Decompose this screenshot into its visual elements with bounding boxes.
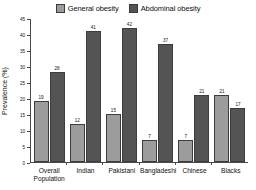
y-axis-tick — [27, 51, 30, 52]
bar[interactable] — [158, 44, 173, 162]
bar-value-label: 19 — [39, 95, 44, 100]
y-axis-tick-label: 25 — [20, 81, 25, 86]
bar-slot: 21 — [194, 19, 209, 162]
y-axis-tick-label: 30 — [20, 65, 25, 70]
bar-value-label: 21 — [219, 89, 224, 94]
bar-slot: 15 — [106, 19, 121, 162]
bar-value-label: 42 — [127, 22, 132, 27]
bar-slot: 7 — [178, 19, 193, 162]
x-axis-category-label: Blacks — [213, 167, 249, 183]
bar[interactable] — [70, 124, 85, 162]
bar[interactable] — [34, 101, 49, 162]
y-axis-title: Prevalence (%) — [1, 67, 8, 115]
legend-swatch-general-obesity-icon — [56, 4, 65, 13]
bar-value-label: 21 — [199, 89, 204, 94]
y-axis-tick — [27, 131, 30, 132]
bar-value-label: 15 — [111, 108, 116, 113]
bar-slot: 21 — [214, 19, 229, 162]
obesity-prevalence-bar-chart: General obesity Abdominal obesity Preval… — [0, 0, 256, 190]
bar-slot: 17 — [230, 19, 245, 162]
legend-item-abdominal-obesity: Abdominal obesity — [129, 4, 201, 13]
y-axis-tick-label: 35 — [20, 49, 25, 54]
bar-value-label: 17 — [235, 102, 240, 107]
bar[interactable] — [194, 95, 209, 162]
y-axis-tick — [27, 99, 30, 100]
y-axis-tick — [27, 83, 30, 84]
y-axis-tick-label: 5 — [22, 145, 25, 150]
bar-value-label: 7 — [184, 134, 187, 139]
y-axis-tick — [27, 163, 30, 164]
plot-area: Prevalence (%) 051015202530354045 192812… — [30, 19, 248, 163]
y-axis-tick-label: 45 — [20, 17, 25, 22]
bar-slot: 19 — [34, 19, 49, 162]
bar-group: 737 — [140, 19, 176, 162]
x-axis-group-tick — [66, 162, 67, 165]
bar-value-label: 7 — [148, 134, 151, 139]
bar-slot: 41 — [86, 19, 101, 162]
bar-group: 721 — [176, 19, 212, 162]
y-axis-tick-label: 10 — [20, 129, 25, 134]
x-axis-category-label: Indian — [67, 167, 103, 183]
bar-slot: 28 — [50, 19, 65, 162]
y-axis-tick — [27, 35, 30, 36]
x-axis-category-label: Pakistani — [104, 167, 140, 183]
bar[interactable] — [50, 72, 65, 162]
x-axis-group-tick — [102, 162, 103, 165]
bar[interactable] — [86, 31, 101, 162]
bar[interactable] — [230, 108, 245, 162]
bar-group: 1928 — [31, 19, 67, 162]
bar-value-label: 41 — [91, 25, 96, 30]
bar[interactable] — [214, 95, 229, 162]
bar[interactable] — [178, 140, 193, 162]
y-axis-tick — [27, 115, 30, 116]
legend-item-general-obesity: General obesity — [56, 4, 119, 13]
x-axis-category-label: Bangladeshi — [140, 167, 176, 183]
bar-value-label: 12 — [75, 118, 80, 123]
x-axis-group-tick — [211, 162, 212, 165]
x-axis-category-labels: Overall PopulationIndianPakistaniBanglad… — [31, 167, 249, 183]
x-axis-category-label: Overall Population — [31, 167, 67, 183]
legend-label-abdominal-obesity: Abdominal obesity — [141, 4, 201, 13]
y-axis-tick — [27, 147, 30, 148]
bar[interactable] — [142, 140, 157, 162]
y-axis-tick-label: 0 — [22, 161, 25, 166]
bar-group: 1542 — [103, 19, 139, 162]
x-axis-group-tick — [139, 162, 140, 165]
y-axis-tick-label: 40 — [20, 33, 25, 38]
y-axis-tick — [27, 67, 30, 68]
legend-swatch-abdominal-obesity-icon — [129, 4, 138, 13]
bar-groups: 1928124115427377212117 — [31, 19, 248, 162]
x-axis-category-label: Chinese — [176, 167, 212, 183]
bar-value-label: 28 — [55, 66, 60, 71]
y-axis-tick — [27, 19, 30, 20]
bar-slot: 12 — [70, 19, 85, 162]
bar-slot: 37 — [158, 19, 173, 162]
legend-label-general-obesity: General obesity — [68, 4, 119, 13]
y-axis-tick-label: 20 — [20, 97, 25, 102]
bar[interactable] — [106, 114, 121, 162]
chart-legend: General obesity Abdominal obesity — [0, 4, 256, 13]
bar-group: 1241 — [67, 19, 103, 162]
bar-value-label: 37 — [163, 38, 168, 43]
x-axis-group-tick — [175, 162, 176, 165]
bar-slot: 7 — [142, 19, 157, 162]
y-axis-tick-label: 15 — [20, 113, 25, 118]
bar-slot: 42 — [122, 19, 137, 162]
bar[interactable] — [122, 28, 137, 162]
bar-group: 2117 — [212, 19, 248, 162]
